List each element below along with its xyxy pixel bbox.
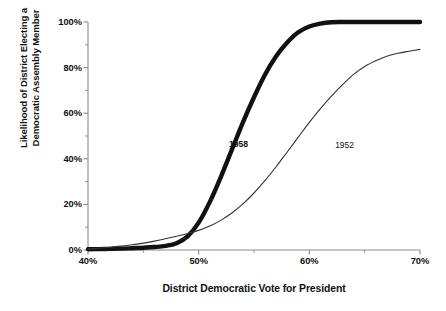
series-label-1952: 1952 — [335, 140, 354, 150]
plot-area — [0, 0, 446, 311]
series-line-1958 — [88, 22, 420, 249]
series-line-1952 — [88, 49, 420, 249]
series-label-1958: 1958 — [229, 139, 248, 149]
axes-layer — [84, 22, 421, 255]
chart-figure: Likelihood of District Electing a Democr… — [0, 0, 446, 311]
series-layer — [88, 22, 420, 249]
